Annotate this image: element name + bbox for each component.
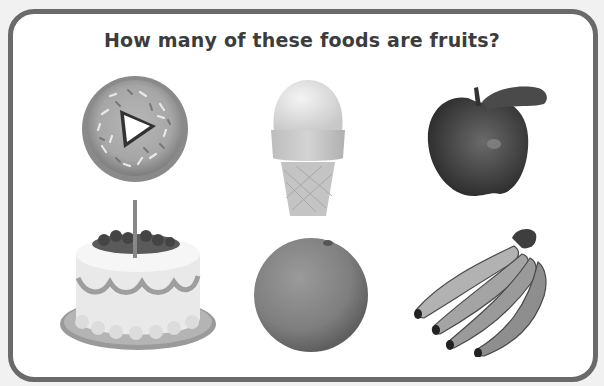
bananas-icon <box>410 222 555 357</box>
cake-icon <box>58 196 218 356</box>
apple-icon <box>424 84 552 202</box>
food-birthday-cake[interactable] <box>58 196 218 356</box>
food-orange[interactable] <box>252 236 372 354</box>
donut-icon <box>80 74 192 186</box>
food-bananas[interactable] <box>410 222 555 357</box>
food-ice-cream[interactable] <box>266 78 350 220</box>
food-apple[interactable] <box>424 84 552 202</box>
ice-cream-icon <box>266 78 350 220</box>
question-title: How many of these foods are fruits? <box>0 29 604 51</box>
food-donut[interactable] <box>80 74 192 186</box>
orange-icon <box>252 236 372 354</box>
